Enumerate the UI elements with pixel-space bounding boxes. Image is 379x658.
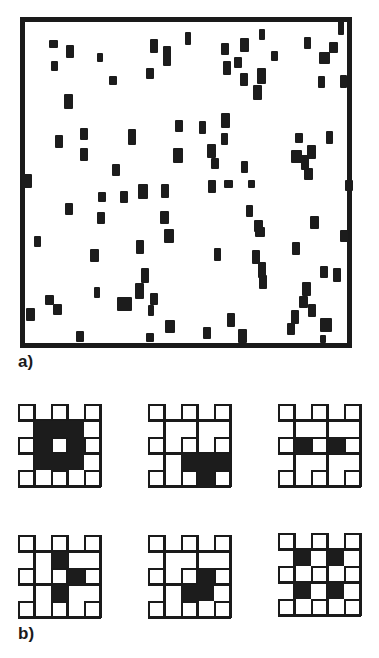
cluster-blob <box>257 68 266 84</box>
cluster-blob <box>224 180 233 188</box>
plaquette-pattern-5 <box>148 535 231 618</box>
lattice-square <box>84 535 101 552</box>
lattice-square <box>344 437 361 454</box>
cluster-blob <box>299 296 308 308</box>
lattice-square <box>84 568 101 585</box>
lattice-square <box>84 601 101 618</box>
cluster-blob <box>214 248 221 261</box>
lattice-square <box>344 566 361 583</box>
lattice-hole <box>69 553 83 567</box>
cluster-blob <box>199 121 206 134</box>
cluster-blob <box>320 335 326 343</box>
cluster-blob <box>185 32 191 45</box>
lattice-square <box>18 568 35 585</box>
lattice-hole <box>329 455 343 469</box>
cluster-blob <box>164 229 174 243</box>
lattice-hole <box>296 422 310 436</box>
cluster-blob <box>320 318 332 332</box>
lattice-square <box>148 601 165 618</box>
lattice-square <box>148 470 165 487</box>
cluster-blob <box>203 327 211 339</box>
lattice-square <box>278 566 295 583</box>
filled-site <box>328 583 345 600</box>
filled-site <box>68 568 85 585</box>
cluster-blob <box>173 148 183 163</box>
cluster-blob <box>223 61 231 75</box>
lattice-square <box>18 437 35 454</box>
lattice-hole <box>166 422 180 436</box>
cluster-blob <box>136 240 144 254</box>
lattice-square <box>18 404 35 421</box>
cluster-blob <box>259 275 267 289</box>
lattice-square <box>51 568 68 585</box>
cluster-blob <box>98 192 106 202</box>
lattice-square <box>51 470 68 487</box>
cluster-blob <box>221 113 230 128</box>
plaquette-pattern-1 <box>18 404 101 487</box>
cluster-blob <box>259 29 265 40</box>
lattice-square <box>181 601 198 618</box>
cluster-blob <box>23 180 31 187</box>
cluster-blob <box>308 304 316 317</box>
lattice-hole <box>69 586 83 600</box>
filled-site <box>328 550 345 567</box>
cluster-blob <box>65 203 73 215</box>
lattice-hole <box>166 455 180 469</box>
cluster-blob <box>207 144 216 158</box>
panel-b-label: b) <box>18 624 34 644</box>
lattice-square <box>18 535 35 552</box>
lattice-square <box>84 470 101 487</box>
cluster-blob <box>94 287 100 298</box>
simulation-panel <box>20 17 352 348</box>
lattice-square <box>148 568 165 585</box>
cluster-blob <box>150 39 158 53</box>
lattice-square <box>311 437 328 454</box>
cluster-blob <box>165 320 175 333</box>
lattice-square <box>214 601 231 618</box>
lattice-hole <box>296 455 310 469</box>
cluster-blob <box>271 51 278 61</box>
lattice-square <box>181 568 198 585</box>
cluster-blob <box>112 164 120 176</box>
cluster-blob <box>211 158 219 169</box>
lattice-square <box>278 437 295 454</box>
lattice-square <box>344 404 361 421</box>
lattice-square <box>84 437 101 454</box>
lattice-square <box>181 470 198 487</box>
lattice-square <box>278 533 295 550</box>
filled-site <box>295 550 312 567</box>
cluster-blob <box>295 133 303 143</box>
lattice-square <box>214 568 231 585</box>
lattice-square <box>214 535 231 552</box>
cluster-blob <box>318 76 325 88</box>
cluster-blob <box>319 52 330 64</box>
cluster-blob <box>128 129 136 145</box>
cluster-blob <box>248 180 255 188</box>
plaquette-pattern-2 <box>148 404 231 487</box>
cluster-blob <box>221 43 229 55</box>
cluster-blob <box>34 236 41 247</box>
lattice-square <box>214 470 231 487</box>
lattice-square <box>344 470 361 487</box>
cluster-blob <box>304 37 311 49</box>
cluster-blob <box>80 148 88 161</box>
cluster-blob <box>150 293 158 305</box>
cluster-blob <box>49 40 58 48</box>
lattice-square <box>51 404 68 421</box>
cluster-blob <box>109 76 117 85</box>
lattice-square <box>311 404 328 421</box>
cluster-blob <box>253 85 262 100</box>
cluster-blob <box>163 46 171 66</box>
cluster-blob <box>80 128 88 140</box>
lattice-square <box>311 599 328 616</box>
cluster-blob <box>161 184 169 198</box>
cluster-blob <box>227 313 235 327</box>
cluster-blob <box>208 180 216 193</box>
plaquette-pattern-3 <box>278 404 361 487</box>
cluster-blob <box>240 73 248 86</box>
cluster-blob <box>53 304 62 315</box>
cluster-blob <box>292 242 300 255</box>
cluster-blob <box>64 94 73 109</box>
lattice-square <box>214 404 231 421</box>
filled-site <box>295 583 312 600</box>
